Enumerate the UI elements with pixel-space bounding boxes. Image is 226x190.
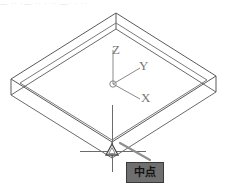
ucs-label-x: X: [141, 91, 150, 104]
ucs-axis-icon: [110, 50, 140, 99]
ucs-label-z: Z: [112, 43, 120, 56]
ucs-x-axis: [113, 84, 140, 99]
ucs-y-axis: [113, 68, 140, 84]
box-vertical-edges: [11, 13, 216, 158]
ucs-label-y: Y: [139, 59, 148, 72]
osnap-tooltip: 中点: [126, 162, 164, 183]
drawing-canvas[interactable]: [0, 0, 226, 190]
cad-viewport[interactable]: — ·· ·— ·· · ·· —· · ··: [0, 0, 226, 190]
midpoint-snap-marker: [106, 144, 118, 155]
osnap-tooltip-label: 中点: [134, 167, 156, 178]
